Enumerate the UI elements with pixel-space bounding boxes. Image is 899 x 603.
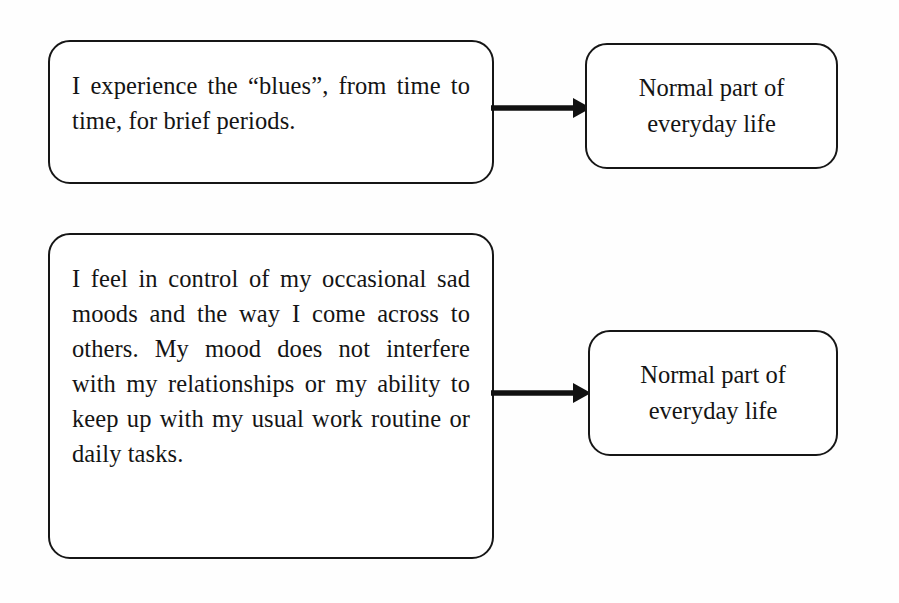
diagram-canvas: I experience the “blues”, from time to t… bbox=[0, 0, 899, 603]
arrow-right-2 bbox=[491, 381, 591, 405]
statement-text-2: I feel in control of my occasional sad m… bbox=[50, 261, 492, 471]
statement-text-1: I experience the “blues”, from time to t… bbox=[50, 68, 492, 138]
statement-box-1: I experience the “blues”, from time to t… bbox=[48, 40, 494, 184]
statement-box-2: I feel in control of my occasional sad m… bbox=[48, 233, 494, 559]
outcome-text-2: Normal part of everyday life bbox=[590, 357, 836, 429]
outcome-box-1: Normal part of everyday life bbox=[585, 43, 838, 169]
outcome-text-1: Normal part of everyday life bbox=[587, 70, 836, 142]
outcome-box-2: Normal part of everyday life bbox=[588, 330, 838, 456]
arrow-right-1 bbox=[491, 96, 591, 120]
